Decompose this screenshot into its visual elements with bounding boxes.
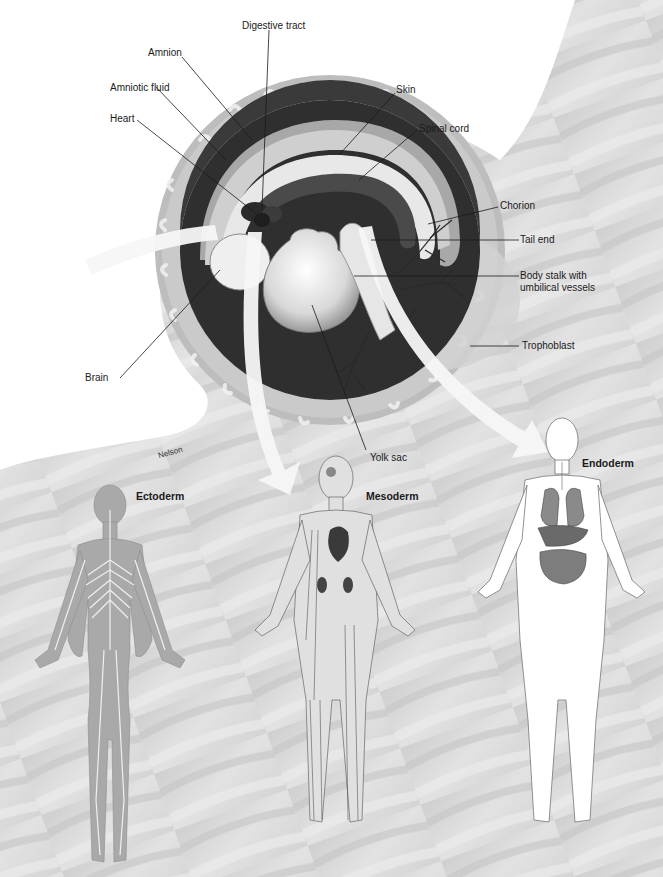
label-umbilical-vessels: umbilical vessels xyxy=(520,282,595,294)
label-digestive-tract: Digestive tract xyxy=(242,20,305,32)
label-tail-end: Tail end xyxy=(520,234,554,246)
label-mesoderm: Mesoderm xyxy=(366,490,419,502)
label-ectoderm: Ectoderm xyxy=(136,490,184,502)
label-heart: Heart xyxy=(110,113,134,125)
label-body-stalk: Body stalk with xyxy=(520,270,587,282)
label-endoderm: Endoderm xyxy=(582,457,634,469)
heart xyxy=(254,213,270,227)
label-trophoblast: Trophoblast xyxy=(522,340,574,352)
embryo-germ-layer-diagram: Digestive tract Amnion Skin Amniotic flu… xyxy=(0,0,663,877)
label-chorion: Chorion xyxy=(500,200,535,212)
label-spinal-cord: Spinal cord xyxy=(419,123,469,135)
label-skin: Skin xyxy=(396,84,415,96)
label-amnion: Amnion xyxy=(148,47,182,59)
kidney-left xyxy=(317,577,327,593)
label-brain: Brain xyxy=(85,372,108,384)
label-amniotic-fluid: Amniotic fluid xyxy=(110,82,169,94)
kidney-right xyxy=(343,577,353,593)
label-yolk-sac: Yolk sac xyxy=(370,452,407,464)
